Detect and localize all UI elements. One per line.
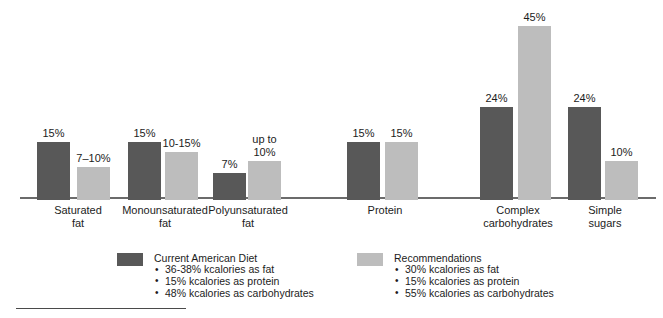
legend-bullets-recommendations: 30% kcalories as fat 15% kcalories as pr… xyxy=(394,264,554,299)
bar-recommended: 10% xyxy=(605,3,638,200)
bar-current: 15% xyxy=(37,3,70,200)
bar-recommended: up to10% xyxy=(248,3,281,200)
x-axis-line xyxy=(20,197,656,199)
bar-value-label: up to10% xyxy=(252,133,276,158)
bar-rect xyxy=(568,107,601,200)
bar-current: 24% xyxy=(568,3,601,200)
footer-divider-rule xyxy=(16,308,186,309)
bar-value-label: 15% xyxy=(133,127,155,140)
bar-recommended: 10-15% xyxy=(165,3,198,200)
legend-bullet: 15% kcalories as protein xyxy=(394,276,554,288)
bar-value-label: 10-15% xyxy=(163,137,201,150)
bar-rect xyxy=(248,161,281,200)
bar-rect xyxy=(347,142,380,200)
legend-swatch-current-american-diet xyxy=(117,253,143,266)
bar-value-label: 15% xyxy=(352,127,374,140)
legend-item-recommendations: Recommendations 30% kcalories as fat 15%… xyxy=(357,252,554,299)
legend-bullets-current-american-diet: 36-38% kcalories as fat 15% kcalories as… xyxy=(154,264,314,299)
legend-text-current-american-diet: Current American Diet 36-38% kcalories a… xyxy=(154,252,314,299)
bar-rect xyxy=(518,26,551,200)
bar-value-label: 10% xyxy=(610,146,632,159)
legend-swatch-recommendations xyxy=(357,253,383,266)
bar-rect xyxy=(385,142,418,200)
bar-value-label: 15% xyxy=(42,127,64,140)
bar-value-label: 45% xyxy=(523,11,545,24)
legend-item-current-american-diet: Current American Diet 36-38% kcalories a… xyxy=(117,252,314,299)
bar-value-label: 7–10% xyxy=(76,152,110,165)
category-label: Protein xyxy=(315,204,455,217)
bar-value-label: 15% xyxy=(390,127,412,140)
bar-value-label: 7% xyxy=(222,158,238,171)
legend-bullet: 15% kcalories as protein xyxy=(154,276,314,288)
category-label: Simplesugars xyxy=(535,204,663,229)
bar-current: 24% xyxy=(480,3,513,200)
bar-rect xyxy=(165,152,198,200)
legend-bullet: 55% kcalories as carbohydrates xyxy=(394,288,554,300)
plot-area: 15%7–10%15%10-15%7%up to10%15%15%24%45%2… xyxy=(0,0,663,200)
legend-bullet: 48% kcalories as carbohydrates xyxy=(154,288,314,300)
bar-rect xyxy=(128,142,161,200)
diet-composition-chart: 15%7–10%15%10-15%7%up to10%15%15%24%45%2… xyxy=(0,0,663,318)
bar-current: 15% xyxy=(128,3,161,200)
bar-recommended: 7–10% xyxy=(77,3,110,200)
bar-rect xyxy=(480,107,513,200)
bar-current: 15% xyxy=(347,3,380,200)
bar-current: 7% xyxy=(213,3,246,200)
bar-value-label: 24% xyxy=(573,92,595,105)
legend-text-recommendations: Recommendations 30% kcalories as fat 15%… xyxy=(394,252,554,299)
bar-recommended: 15% xyxy=(385,3,418,200)
bar-rect xyxy=(77,167,110,200)
category-label: Polyunsaturatedfat xyxy=(178,204,318,229)
bar-recommended: 45% xyxy=(518,3,551,200)
bar-rect xyxy=(37,142,70,200)
chart-legend: Current American Diet 36-38% kcalories a… xyxy=(0,252,663,300)
bar-rect xyxy=(213,173,246,200)
bar-value-label: 24% xyxy=(485,92,507,105)
bar-rect xyxy=(605,161,638,200)
